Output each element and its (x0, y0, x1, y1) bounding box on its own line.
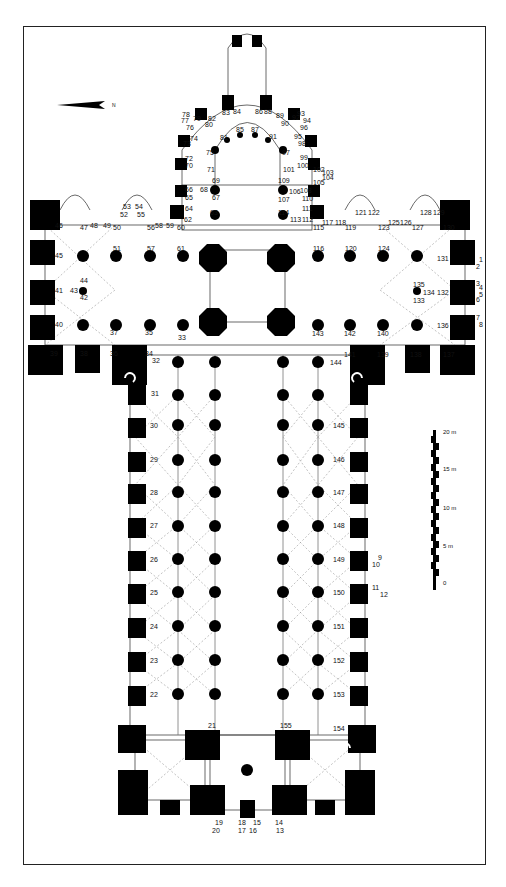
label-135: 135 (413, 281, 425, 288)
label-54: 54 (135, 203, 143, 210)
wall-buttresses (28, 35, 475, 818)
label-55: 55 (137, 211, 145, 218)
label-32: 32 (152, 357, 160, 364)
label-110: 110 (302, 195, 313, 202)
label-81: 81 (220, 134, 228, 141)
label-2: 2 (476, 263, 480, 270)
label-90: 90 (281, 120, 289, 127)
label-113: 113 (290, 216, 301, 223)
label-59: 59 (166, 222, 174, 229)
label-101: 101 (283, 166, 295, 173)
label-61: 61 (177, 245, 185, 252)
label-147: 147 (333, 489, 345, 496)
label-131: 131 (437, 255, 449, 262)
label-96: 96 (300, 124, 308, 131)
label-27: 27 (150, 522, 158, 529)
label-107: 107 (278, 196, 290, 203)
label-41: 41 (55, 287, 63, 294)
label-38: 38 (80, 350, 88, 357)
label-24: 24 (150, 623, 158, 630)
label-56: 56 (147, 224, 155, 231)
label-116: 116 (313, 245, 324, 252)
label-100: 100 (297, 162, 309, 169)
label-67: 67 (212, 194, 220, 201)
label-129: 129 (433, 209, 445, 216)
scale-bar: 20 m 15 m 10 m 5 m 0 (431, 429, 456, 590)
label-35: 35 (145, 329, 153, 336)
label-75: 75 (206, 149, 214, 156)
label-23: 23 (150, 657, 158, 664)
label-49: 49 (103, 222, 111, 229)
label-98: 98 (298, 140, 306, 147)
label-114: 114 (278, 209, 289, 216)
scale-tick-15: 15 m (443, 466, 456, 472)
label-78: 78 (182, 111, 190, 118)
label-125: 125 (388, 219, 400, 226)
scale-tick-0: 0 (443, 580, 447, 586)
label-139: 139 (377, 351, 389, 358)
cathedral-floor-plan: N (0, 0, 506, 887)
label-111: 111 (302, 205, 313, 212)
label-62: 62 (184, 216, 192, 223)
label-19: 19 (215, 819, 223, 826)
label-119: 119 (345, 224, 356, 231)
label-132: 132 (437, 289, 449, 296)
label-127: 127 (412, 224, 424, 231)
label-97: 97 (282, 149, 290, 156)
label-155: 155 (280, 722, 292, 729)
label-87: 87 (251, 126, 259, 133)
label-33: 33 (178, 334, 186, 341)
label-34: 34 (145, 350, 153, 357)
label-71: 71 (207, 166, 215, 173)
label-46: 46 (55, 222, 63, 229)
label-13: 13 (276, 827, 284, 834)
label-140: 140 (377, 330, 389, 337)
label-79: 79 (193, 115, 201, 122)
label-124: 124 (378, 245, 390, 252)
nave-piers (77, 132, 423, 700)
scale-tick-20: 20 m (443, 429, 456, 435)
label-138: 138 (410, 351, 422, 358)
label-72: 72 (185, 155, 193, 162)
label-9: 9 (378, 554, 382, 561)
scale-tick-5: 5 m (443, 543, 453, 549)
label-43: 43 (70, 287, 78, 294)
label-70: 70 (185, 162, 193, 169)
scale-tick-10: 10 m (443, 505, 456, 511)
label-74: 74 (190, 135, 198, 142)
label-94: 94 (303, 117, 311, 124)
label-136: 136 (437, 322, 449, 329)
label-25: 25 (150, 589, 158, 596)
label-11: 11 (372, 584, 379, 591)
label-133: 133 (413, 297, 425, 304)
label-84: 84 (233, 108, 241, 115)
label-151: 151 (333, 623, 345, 630)
label-7: 7 (476, 314, 480, 321)
label-45: 45 (55, 252, 63, 259)
label-6: 6 (476, 296, 480, 303)
label-86: 86 (255, 108, 263, 115)
label-21: 21 (208, 722, 216, 729)
label-99: 99 (300, 154, 308, 161)
label-12: 12 (380, 591, 388, 598)
label-28: 28 (150, 489, 158, 496)
label-89: 89 (276, 112, 284, 119)
label-121: 121 (355, 209, 367, 216)
label-37: 37 (110, 329, 118, 336)
label-40: 40 (55, 321, 63, 328)
label-10: 10 (372, 561, 380, 568)
label-20: 20 (212, 827, 220, 834)
label-52: 52 (120, 211, 128, 218)
label-63: 63 (210, 209, 218, 216)
label-4: 4 (479, 284, 483, 291)
label-51: 51 (113, 245, 121, 252)
label-65: 65 (185, 194, 193, 201)
label-142: 142 (344, 330, 356, 337)
label-95: 95 (294, 133, 302, 140)
label-154: 154 (333, 725, 345, 732)
label-143: 143 (312, 330, 324, 337)
label-17: 17 (238, 827, 246, 834)
label-141: 141 (344, 351, 356, 358)
label-31: 31 (151, 390, 159, 397)
label-42: 42 (80, 294, 88, 301)
